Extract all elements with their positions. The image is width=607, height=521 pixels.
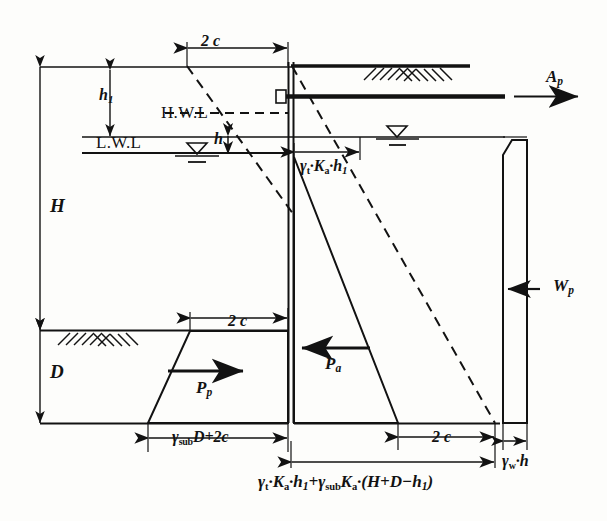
label-hwl: H.W.L	[161, 104, 208, 121]
label-water-pressure: γw·h	[502, 453, 529, 471]
label-mid-2c: 2 c	[228, 313, 247, 329]
ground-hatch-dredge	[58, 333, 138, 346]
label-base-formula: γt·Ka·h1+γsubKa·(H+D−h1)	[258, 473, 433, 493]
figure-container: 2 c H D h1 h H.W.L L.W.L Ap Wp Pa Pp 2 c…	[0, 0, 607, 521]
label-bottom-2c: 2 c	[432, 429, 451, 445]
passive-pressure-wedge	[148, 331, 288, 423]
diagram-canvas	[0, 0, 607, 521]
label-D: D	[50, 362, 64, 381]
ground-hatch-top	[364, 68, 452, 81]
label-lwl: L.W.L	[96, 134, 141, 151]
label-anchor-force: Ap	[546, 68, 563, 88]
label-passive-force: Pp	[196, 379, 212, 399]
sheet-pile-wall	[289, 62, 294, 423]
label-active-force: Pa	[325, 355, 341, 375]
label-h1: h1	[99, 87, 113, 105]
label-H: H	[50, 196, 65, 215]
dimension-water-width	[503, 424, 527, 450]
top-ground-line-group	[40, 66, 470, 67]
label-water-force: Wp	[553, 277, 574, 297]
label-h: h	[214, 131, 223, 147]
dimension-base-formula	[291, 441, 495, 468]
water-pressure-diagram	[503, 137, 527, 423]
water-table-symbol-right	[376, 126, 419, 145]
label-active-top-pressure: γt·Ka·h1	[300, 158, 348, 176]
label-passive-bottom: γsubD+2c	[172, 429, 229, 447]
active-pressure-diagram	[294, 157, 398, 423]
label-top-2c: 2 c	[201, 33, 220, 49]
